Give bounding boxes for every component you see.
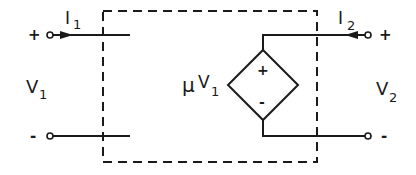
circuit-diagram: + - I 1 V 1 + - I 2 V 2 + - μ V 1 (0, 0, 416, 175)
current-arrow-i1-icon (60, 31, 73, 39)
voltage-v1-label: V (26, 76, 39, 97)
port2-plus-sign: + (379, 26, 392, 44)
source-control-label: V (198, 72, 210, 92)
port1-bottom-terminal[interactable] (47, 133, 53, 139)
port1-top-terminal[interactable] (47, 32, 53, 38)
port1-minus-sign: - (30, 127, 36, 145)
port2-top-terminal[interactable] (365, 32, 371, 38)
current-i2-label: I (338, 8, 343, 28)
port2-top-wire (263, 35, 365, 50)
voltage-v2-label: V (376, 78, 389, 99)
source-plus-sign: + (257, 62, 269, 78)
port1-plus-sign: + (28, 26, 41, 44)
current-i1-subscript: 1 (73, 17, 81, 32)
port2-minus-sign: - (381, 127, 387, 145)
current-i1-label: I (65, 8, 70, 28)
voltage-v2-subscript: 2 (389, 90, 397, 105)
source-gain-symbol: μ (182, 73, 195, 97)
source-control-subscript: 1 (211, 84, 219, 99)
port2-bottom-wire (263, 120, 365, 136)
port2-bottom-terminal[interactable] (365, 133, 371, 139)
current-i2-subscript: 2 (347, 18, 355, 33)
source-minus-sign: - (259, 94, 265, 110)
voltage-v1-subscript: 1 (39, 87, 47, 102)
